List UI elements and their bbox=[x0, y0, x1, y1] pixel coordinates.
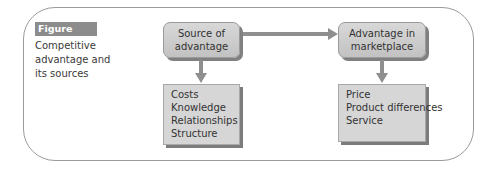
caption-line: Competitive bbox=[35, 39, 135, 53]
arrow-right-icon bbox=[328, 28, 338, 40]
market-item: Service bbox=[346, 114, 425, 127]
source-box-line: advantage bbox=[175, 40, 228, 53]
caption-line: its sources bbox=[35, 67, 135, 81]
arrow-down-icon bbox=[376, 73, 388, 83]
arrow-source-down-shaft bbox=[199, 60, 203, 74]
caption-line: advantage and bbox=[35, 53, 135, 67]
market-item: Price bbox=[346, 88, 425, 101]
source-item: Relationships bbox=[171, 114, 239, 127]
source-box-line: Source of bbox=[175, 27, 228, 40]
arrow-market-down-shaft bbox=[380, 60, 384, 74]
market-box-line: marketplace bbox=[349, 40, 415, 53]
market-items-box: Price Product differences Service bbox=[338, 84, 426, 142]
market-item: Product differences bbox=[346, 101, 425, 114]
source-item: Costs bbox=[171, 88, 239, 101]
figure-number-label: Figure 22.4 bbox=[35, 22, 97, 36]
market-box-line: Advantage in bbox=[349, 27, 415, 40]
source-item: Structure bbox=[171, 127, 239, 140]
source-item: Knowledge bbox=[171, 101, 239, 114]
figure-caption: Competitive advantage and its sources bbox=[35, 39, 135, 81]
arrow-source-to-market-shaft bbox=[243, 32, 328, 36]
source-of-advantage-box: Source of advantage bbox=[163, 22, 240, 58]
source-items-box: Costs Knowledge Relationships Structure bbox=[163, 84, 240, 145]
advantage-in-marketplace-box: Advantage in marketplace bbox=[338, 22, 426, 58]
arrow-down-icon bbox=[195, 73, 207, 83]
